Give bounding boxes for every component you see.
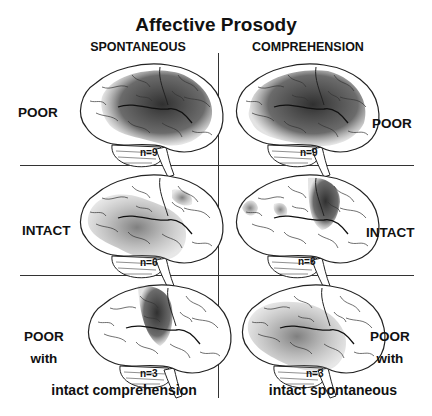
brain-lesion-map-poor-comprehension bbox=[228, 57, 388, 179]
row-label-line2: with bbox=[370, 348, 410, 370]
sample-size-label: n=3 bbox=[306, 368, 324, 379]
brain-lesion-map-intact-comprehension bbox=[228, 168, 388, 290]
row-label-intact: INTACT bbox=[22, 220, 71, 242]
sample-size-label: n=9 bbox=[300, 147, 318, 158]
row-label-line1: POOR bbox=[370, 326, 410, 348]
row-label-line2: with bbox=[24, 348, 64, 370]
column-header-comprehension: COMPREHENSION bbox=[238, 40, 378, 54]
sample-size-label: n=6 bbox=[140, 257, 158, 268]
brain-lesion-map-intact-spontaneous bbox=[72, 168, 232, 290]
column-header-spontaneous: SPONTANEOUS bbox=[78, 40, 198, 54]
brain-lesion-map-poor-spontaneous bbox=[72, 57, 232, 179]
sample-size-label: n=3 bbox=[140, 368, 158, 379]
figure-title: Affective Prosody bbox=[0, 14, 432, 36]
sample-size-label: n=6 bbox=[298, 256, 316, 267]
row-label-poor-right: POOR bbox=[372, 113, 412, 135]
row-label-intact-right: INTACT bbox=[366, 222, 415, 244]
row-label-line1: POOR bbox=[24, 326, 64, 348]
caption-intact-comprehension: intact comprehension bbox=[46, 382, 202, 398]
row-label-poor: POOR bbox=[18, 102, 58, 124]
row-label-poor-with-right: POOR with bbox=[370, 326, 410, 370]
sample-size-label: n=9 bbox=[140, 147, 158, 158]
caption-intact-spontaneous: intact spontaneous bbox=[258, 382, 408, 398]
row-label-poor-with-left: POOR with bbox=[24, 326, 64, 370]
